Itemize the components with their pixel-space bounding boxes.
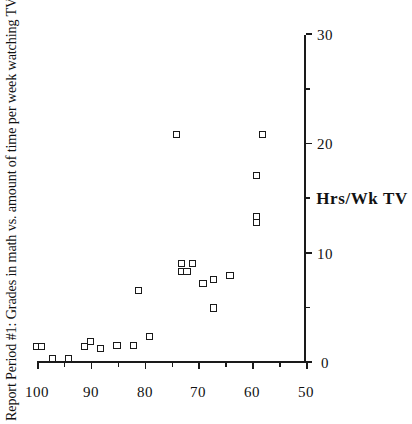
data-point: [210, 304, 217, 311]
grade-tick-label-90: 90: [74, 384, 108, 400]
data-point: [49, 355, 56, 362]
grade-tick-minor-65: [225, 363, 227, 367]
grade-tick-label-60: 60: [235, 384, 269, 400]
data-point: [178, 260, 185, 267]
hours-tick-label-20: 20: [312, 136, 338, 152]
page-title: Report Period #1: Grades in math vs. amo…: [0, 0, 22, 424]
grade-tick-minor-85: [118, 363, 120, 367]
data-point: [253, 172, 260, 179]
grade-tick-minor-95: [64, 363, 66, 367]
data-points-layer: [37, 35, 306, 363]
data-point: [97, 345, 104, 352]
data-point: [189, 260, 196, 267]
grade-tick-100: [37, 363, 39, 369]
grade-tick-minor-75: [172, 363, 174, 367]
grade-tick-label-80: 80: [128, 384, 162, 400]
plot-inner: 1009080706050 0102030 Hrs/Wk TV: [37, 35, 306, 363]
hours-tick-label-0: 0: [312, 355, 338, 371]
grade-tick-label-100: 100: [20, 384, 54, 400]
data-point: [183, 268, 190, 275]
hours-tick-minor-5: [306, 307, 310, 309]
grade-tick-label-70: 70: [181, 384, 215, 400]
hours-tick-minor-25: [306, 88, 310, 90]
grade-tick-80: [145, 363, 147, 369]
grade-tick-label-50: 50: [289, 384, 323, 400]
grade-tick-60: [252, 363, 254, 369]
data-point: [113, 342, 120, 349]
plot-rotor: 1009080706050 0102030 Hrs/Wk TV: [37, 35, 306, 363]
data-point: [135, 287, 142, 294]
data-point: [130, 342, 137, 349]
data-point: [173, 131, 180, 138]
data-point: [199, 280, 206, 287]
data-point: [65, 355, 72, 362]
data-point: [226, 272, 233, 279]
grade-tick-50: [306, 363, 308, 369]
data-point: [210, 276, 217, 283]
data-point: [253, 219, 260, 226]
hours-tick-label-30: 30: [312, 27, 338, 43]
data-point: [87, 338, 94, 345]
data-point: [259, 131, 266, 138]
grade-tick-70: [198, 363, 200, 369]
grade-tick-minor-55: [279, 363, 281, 367]
hours-tick-label-10: 10: [312, 246, 338, 262]
data-point: [38, 343, 45, 350]
data-point: [146, 333, 153, 340]
grade-tick-90: [91, 363, 93, 369]
